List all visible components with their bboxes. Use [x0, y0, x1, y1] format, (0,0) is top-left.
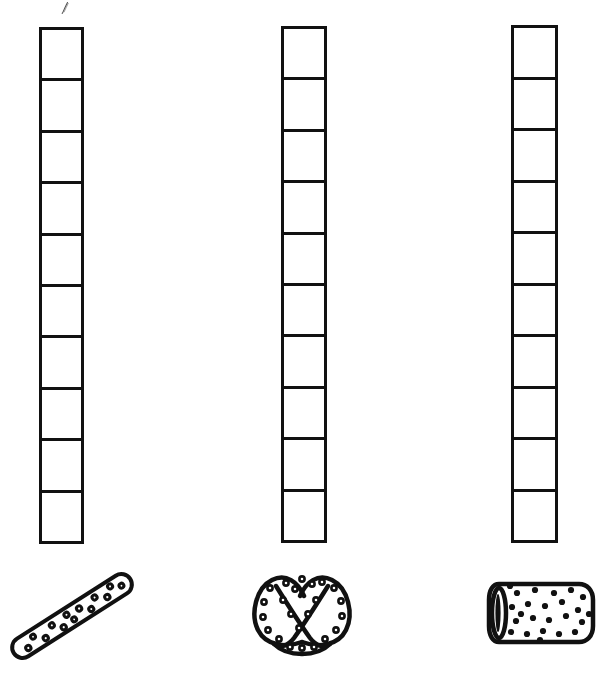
graph-cell[interactable]	[284, 80, 324, 131]
graph-cell[interactable]	[514, 131, 555, 183]
graph-cell[interactable]	[514, 183, 555, 235]
graph-cell[interactable]	[284, 492, 324, 540]
graph-cell[interactable]	[42, 493, 81, 541]
graph-cell[interactable]	[42, 390, 81, 441]
graph-cell[interactable]	[514, 28, 555, 80]
graph-column-1[interactable]	[39, 27, 84, 544]
graph-cell[interactable]	[42, 338, 81, 389]
graph-cell[interactable]	[42, 184, 81, 235]
graph-cell[interactable]	[514, 80, 555, 132]
graph-cell[interactable]	[284, 183, 324, 234]
pretzel-twist-icon	[246, 562, 358, 666]
graph-cell[interactable]	[284, 235, 324, 286]
graph-cell[interactable]	[514, 234, 555, 286]
graph-cell[interactable]	[284, 440, 324, 491]
graph-cell[interactable]	[514, 286, 555, 338]
graph-cell[interactable]	[42, 287, 81, 338]
graph-cell[interactable]	[284, 389, 324, 440]
pretzel-stick-icon	[2, 566, 142, 666]
graph-cell[interactable]	[42, 441, 81, 492]
graph-cell[interactable]	[514, 337, 555, 389]
graph-column-2[interactable]	[281, 26, 327, 543]
graph-cell[interactable]	[514, 440, 555, 492]
graph-cell[interactable]	[284, 29, 324, 80]
pretzel-nugget-icon	[483, 574, 599, 652]
graph-cell[interactable]	[284, 286, 324, 337]
graph-cell[interactable]	[42, 81, 81, 132]
worksheet-page	[0, 0, 611, 681]
graph-cell[interactable]	[284, 132, 324, 183]
graph-cell[interactable]	[42, 30, 81, 81]
graph-cell[interactable]	[514, 492, 555, 541]
graph-cell[interactable]	[514, 389, 555, 441]
pen-stray-mark	[60, 0, 70, 12]
graph-cell[interactable]	[284, 337, 324, 388]
graph-column-3[interactable]	[511, 25, 558, 543]
graph-cell[interactable]	[42, 236, 81, 287]
graph-cell[interactable]	[42, 133, 81, 184]
